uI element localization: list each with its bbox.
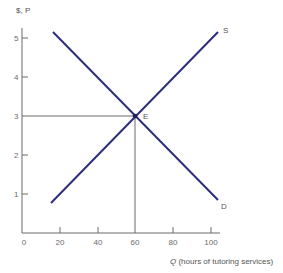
y-tick-label: 1 [14, 190, 19, 199]
y-axis-title: $, P [16, 6, 30, 15]
y-tick-label: 4 [14, 73, 19, 82]
x-tick-label: 100 [204, 238, 218, 247]
x-tick-label: 40 [94, 238, 103, 247]
x-ticks: 0 20 40 60 80 100 [22, 227, 218, 247]
x-tick-label: 0 [22, 238, 27, 247]
supply-label: S [223, 26, 228, 35]
equilibrium-label: E [143, 112, 148, 121]
y-tick-label: 5 [14, 34, 19, 43]
x-axis-title-rest: (hours of tutoring services) [176, 257, 273, 266]
x-axis-title: Q (hours of tutoring services) [170, 257, 273, 266]
demand-label: D [221, 202, 227, 211]
y-tick-label: 3 [14, 112, 19, 121]
x-tick-label: 60 [131, 238, 140, 247]
equilibrium-point [133, 114, 138, 119]
x-tick-label: 80 [169, 238, 178, 247]
y-tick-label: 2 [14, 151, 19, 160]
supply-demand-chart: $, P 1 2 3 4 5 0 20 40 60 80 100 Q (hour… [0, 0, 283, 273]
x-tick-label: 20 [56, 238, 65, 247]
